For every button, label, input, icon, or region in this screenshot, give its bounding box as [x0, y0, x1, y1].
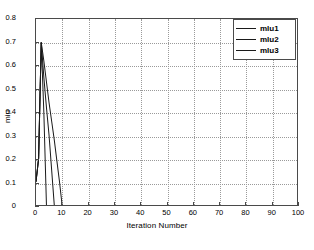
y-tick-label: 0.2: [0, 155, 16, 163]
y-tick-mark: [35, 159, 39, 160]
series-line-mlu3: [36, 42, 62, 205]
x-tick-label: 50: [162, 209, 170, 217]
legend-item-mlu2[interactable]: mlu2: [236, 34, 292, 45]
y-tick-mark: [35, 18, 39, 19]
x-tick-label: 100: [292, 209, 305, 217]
x-tick-label: 40: [136, 209, 144, 217]
y-tick-mark: [35, 206, 39, 207]
y-tick-mark: [35, 112, 39, 113]
x-tick-mark: [193, 202, 194, 206]
x-tick-label: 10: [57, 209, 65, 217]
x-tick-mark: [219, 202, 220, 206]
x-tick-mark: [272, 202, 273, 206]
y-axis-label: miu: [3, 92, 12, 142]
x-tick-label: 90: [268, 209, 276, 217]
x-tick-mark: [167, 202, 168, 206]
legend-label: mlu3: [260, 47, 279, 55]
y-tick-label: 0.1: [0, 179, 16, 187]
x-tick-label: 20: [83, 209, 91, 217]
x-tick-label: 70: [215, 209, 223, 217]
x-tick-label: 30: [110, 209, 118, 217]
x-tick-mark: [114, 202, 115, 206]
legend-item-mlu1[interactable]: mlu1: [236, 23, 292, 34]
y-tick-label: 0.8: [0, 14, 16, 22]
x-tick-label: 60: [189, 209, 197, 217]
legend-label: mlu2: [260, 36, 279, 44]
figure-canvas: 00.10.20.30.40.50.60.70.8 01020304050607…: [0, 0, 314, 250]
legend-swatch-icon: [236, 28, 256, 29]
x-tick-label: 80: [241, 209, 249, 217]
legend-swatch-icon: [236, 39, 256, 40]
x-axis-label: Iteration Number: [0, 221, 314, 230]
y-tick-label: 0.7: [0, 38, 16, 46]
y-tick-mark: [35, 136, 39, 137]
y-tick-label: 0.6: [0, 61, 16, 69]
x-tick-mark: [245, 202, 246, 206]
x-tick-mark: [35, 202, 36, 206]
legend-label: mlu1: [260, 25, 279, 33]
x-tick-mark: [140, 202, 141, 206]
y-tick-mark: [35, 89, 39, 90]
legend: mlu1mlu2mlu3: [233, 19, 296, 60]
y-tick-mark: [35, 65, 39, 66]
x-tick-mark: [88, 202, 89, 206]
legend-swatch-icon: [236, 50, 256, 51]
y-tick-label: 0: [0, 202, 16, 210]
x-tick-mark: [61, 202, 62, 206]
x-tick-label: 0: [33, 209, 37, 217]
y-tick-mark: [35, 42, 39, 43]
legend-item-mlu3[interactable]: mlu3: [236, 45, 292, 56]
y-tick-mark: [35, 183, 39, 184]
x-tick-mark: [298, 202, 299, 206]
